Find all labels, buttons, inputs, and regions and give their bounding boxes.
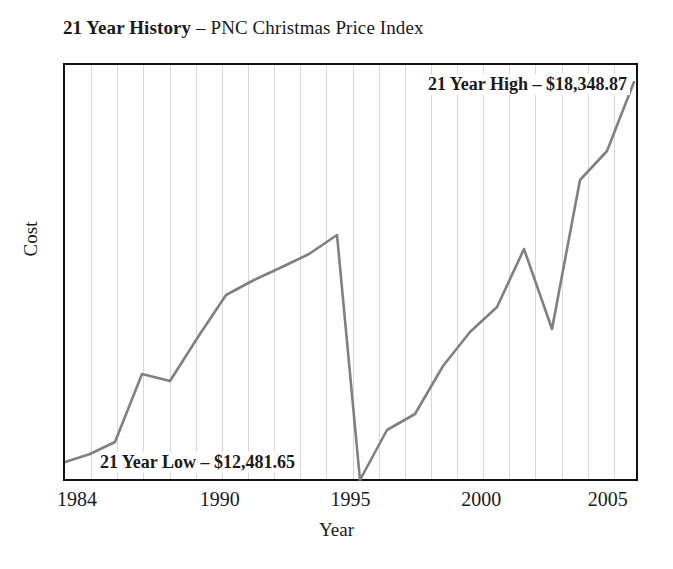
- x-tick-label: 1995: [331, 487, 371, 511]
- x-tick-label: 1984: [57, 487, 97, 511]
- annotation-21-year-high: 21 Year High – $18,348.87: [425, 74, 630, 95]
- x-axis-title: Year: [0, 519, 673, 541]
- annotation-21-year-low: 21 Year Low – $12,481.65: [97, 452, 298, 473]
- chart-title-bold: 21 Year History: [63, 17, 191, 38]
- y-axis-title: Cost: [20, 204, 42, 274]
- x-tick-label: 2005: [588, 487, 628, 511]
- chart-title: 21 Year History – PNC Christmas Price In…: [63, 17, 424, 39]
- x-tick-label: 1990: [200, 487, 240, 511]
- chart-page: 21 Year History – PNC Christmas Price In…: [0, 0, 673, 569]
- x-tick-label: 2000: [461, 487, 501, 511]
- plot-area: 21 Year High – $18,348.87 21 Year Low – …: [63, 63, 638, 481]
- annotation-layer: 21 Year High – $18,348.87 21 Year Low – …: [65, 65, 636, 479]
- plot-inner: 21 Year High – $18,348.87 21 Year Low – …: [65, 65, 636, 479]
- chart-title-dash: –: [191, 17, 210, 38]
- chart-title-rest: PNC Christmas Price Index: [210, 17, 423, 38]
